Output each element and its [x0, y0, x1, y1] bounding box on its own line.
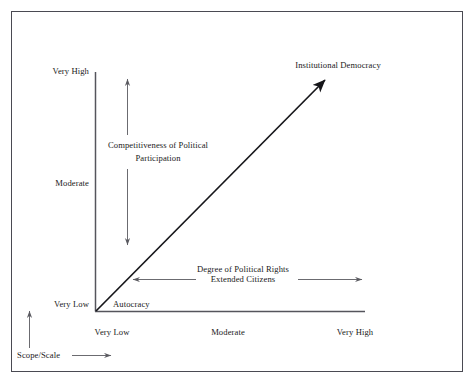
y-tick-label-moderate: Moderate: [55, 178, 89, 189]
autocracy-label: Autocracy: [113, 299, 150, 310]
competitiveness-dimension-label: Competitiveness of Political Participati…: [92, 139, 224, 164]
y-tick-label-very-low: Very Low: [54, 299, 89, 310]
x-tick-label-very-high: Very High: [337, 327, 373, 338]
x-tick-label-moderate: Moderate: [211, 327, 245, 338]
y-tick-label-very-high: Very High: [53, 66, 89, 77]
institutional-democracy-label: Institutional Democracy: [295, 60, 381, 71]
scope-scale-label: Scope/Scale: [17, 350, 60, 361]
x-tick-label-very-low: Very Low: [95, 327, 130, 338]
competitiveness-label-line-1: Competitiveness of Political: [108, 140, 208, 150]
figure-container: Very High Moderate Very Low Very Low Mod…: [0, 0, 475, 386]
competitiveness-label-line-2: Participation: [135, 153, 180, 163]
political-rights-label-line-2: Extended Citizens: [207, 274, 279, 285]
